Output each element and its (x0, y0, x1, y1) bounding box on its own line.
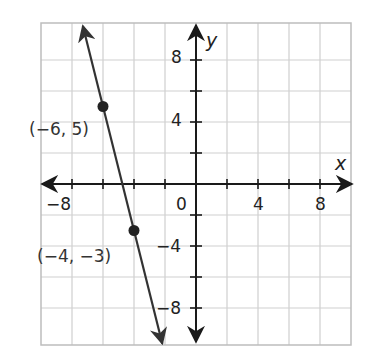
point-neg6-5 (98, 101, 109, 112)
x-tick-label-8: 8 (315, 194, 326, 214)
y-tick-label-4: 4 (171, 110, 182, 130)
y-tick-label-8: 8 (171, 47, 182, 67)
point-label-neg4-neg3: (−4, −3) (37, 246, 111, 266)
y-axis-label: y (205, 29, 218, 51)
coordinate-plane: y x −8 0 4 8 8 4 −4 −8 (−6, 5) (−4, −3) (0, 0, 367, 360)
x-tick-label-4: 4 (253, 194, 264, 214)
y-tick-label-neg4: −4 (156, 236, 181, 256)
point-label-neg6-5: (−6, 5) (29, 119, 89, 139)
point-neg4-neg3 (129, 225, 140, 236)
y-tick-label-neg8: −8 (156, 298, 181, 318)
x-axis-label: x (334, 152, 347, 174)
x-tick-label-neg8: −8 (46, 194, 71, 214)
origin-label: 0 (176, 194, 187, 214)
